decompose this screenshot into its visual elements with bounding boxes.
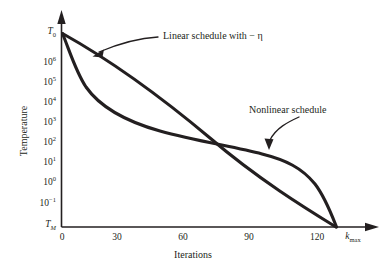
y-tick-10e6: 106 [24,56,56,68]
x-tick-120: 120 [310,233,324,243]
x-tick-kmax: kmax [345,232,360,243]
x-axis-title: Iterations [174,250,212,260]
y-tick-tm: TM [24,220,56,231]
x-tick-60: 60 [178,233,188,243]
x-tick-30: 30 [112,233,122,243]
nonlinear-schedule-annotation: Nonlinear schedule [249,105,326,115]
y-axis-title: Temperature [19,106,29,156]
y-tick-10e1: 101 [24,156,56,168]
x-tick-0: 0 [60,233,65,243]
y-tick-10e5: 105 [24,76,56,88]
y-tick-10e-1: 10−1 [21,197,56,209]
x-tick-90: 90 [244,233,254,243]
y-tick-t0: T0 [24,27,56,38]
linear-schedule-annotation: Linear schedule with − η [163,31,263,41]
y-tick-10e0: 100 [24,176,56,188]
